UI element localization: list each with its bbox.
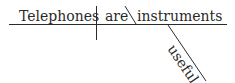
sentence-diagram: Telephones are instruments useful <box>0 0 235 83</box>
predicate-nominative-word: instruments <box>137 9 222 23</box>
subject-word: Telephones <box>19 9 99 23</box>
verb-word: are <box>105 9 128 23</box>
